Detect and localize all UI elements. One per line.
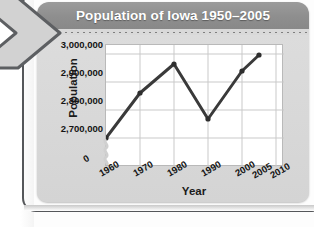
gridlines [106, 45, 284, 167]
y-tick-label: 2,800,000 [39, 95, 103, 106]
chevron-right-arrow-icon [0, 0, 64, 72]
card-body: Population 3,000,000 2,900,000 2,800,000… [37, 35, 309, 202]
y-tick-label: 2,700,000 [39, 123, 103, 134]
page-title: Population of Iowa 1950–2005 [76, 8, 270, 23]
data-point [137, 90, 142, 95]
chart-card: Population of Iowa 1950–2005 Population … [37, 2, 309, 202]
figure-root: Population of Iowa 1950–2005 Population … [0, 0, 314, 227]
data-point [239, 68, 244, 73]
data-point [205, 116, 210, 121]
card-header: Population of Iowa 1950–2005 [37, 2, 309, 29]
y-origin-label: 0 [81, 152, 91, 164]
data-point [256, 52, 261, 57]
data-point [171, 61, 176, 66]
line-chart: Population 3,000,000 2,900,000 2,800,000… [37, 35, 309, 202]
data-line [106, 55, 259, 138]
data-markers [106, 52, 262, 140]
x-axis-title: Year [105, 185, 283, 197]
plot-svg [106, 45, 284, 167]
page-shadow [24, 205, 314, 211]
plot-area [105, 44, 283, 166]
